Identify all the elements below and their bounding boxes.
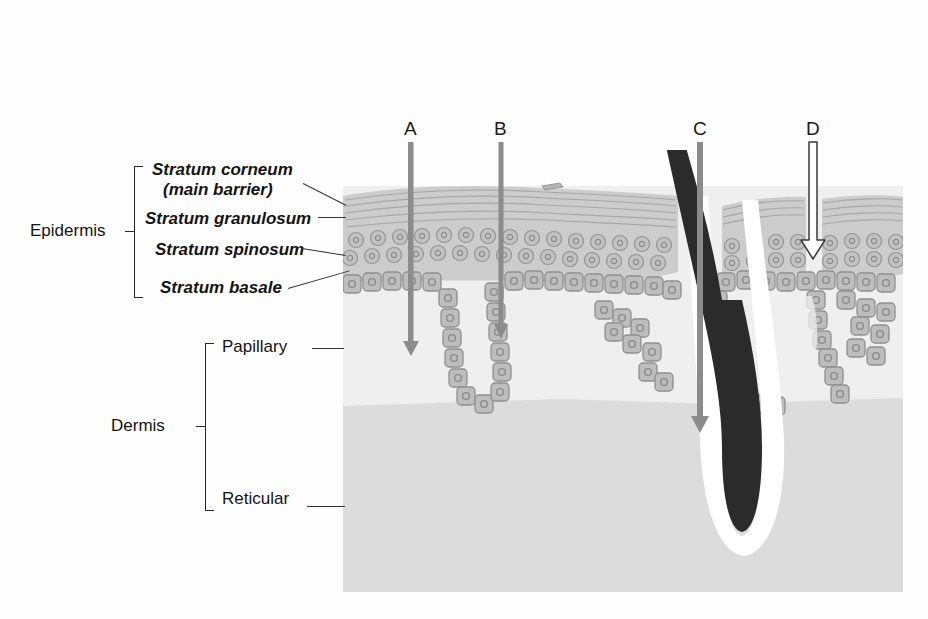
epidermis-label: Epidermis (30, 221, 106, 241)
papillary-label: Papillary (222, 337, 287, 357)
arrow-letter-a: A (404, 118, 417, 140)
penetration-arrows (0, 0, 928, 619)
dermis-bracket-bottom (205, 510, 214, 511)
dermis-bracket-top (205, 343, 214, 344)
arrow-letter-b: B (494, 118, 507, 140)
epidermis-bracket-spine (134, 166, 135, 298)
dermis-bracket-tick (196, 426, 205, 427)
dermis-bracket-spine (205, 343, 206, 511)
leader-reticular (307, 506, 345, 507)
arrow-letter-c: C (693, 118, 707, 140)
leader-papillary (312, 348, 344, 349)
arrow-B (494, 142, 508, 339)
arrow-C (691, 142, 709, 433)
arrow-letter-d: D (806, 118, 820, 140)
dermis-label: Dermis (111, 416, 165, 436)
figure-canvas: A B C D Epidermis Stratum corneum (main … (0, 0, 928, 619)
epidermis-bracket-tick (125, 231, 134, 232)
stratum-corneum-label-line1: Stratum corneum (152, 160, 293, 180)
stratum-corneum-label-line2: (main barrier) (163, 180, 273, 200)
epidermis-bracket-top (134, 166, 143, 167)
leader-stratum-granulosum (318, 217, 346, 218)
reticular-label: Reticular (222, 489, 289, 509)
stratum-spinosum-label: Stratum spinosum (155, 240, 304, 260)
arrow-A (403, 142, 419, 356)
epidermis-bracket-bottom (134, 297, 143, 298)
arrow-D (801, 142, 825, 259)
stratum-basale-label: Stratum basale (160, 278, 282, 298)
stratum-granulosum-label: Stratum granulosum (145, 209, 311, 229)
